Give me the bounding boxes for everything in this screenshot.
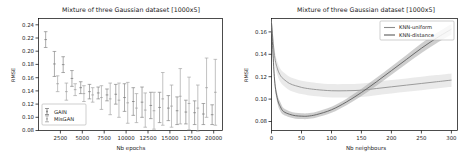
- left-xtick-3: 10000: [118, 135, 136, 141]
- error-bar: [205, 58, 209, 117]
- right-legend-label-knn-distance: KNN-distance: [399, 32, 434, 38]
- left-legend-label-misgan: MisGAN: [54, 116, 74, 122]
- right-xtick-6: 300: [446, 135, 457, 141]
- error-bar: [167, 96, 171, 121]
- right-xtick-4: 200: [386, 135, 397, 141]
- left-xtick-4: 12500: [139, 135, 157, 141]
- error-bar: [152, 92, 156, 129]
- error-bar: [196, 85, 200, 131]
- right-chart-svg: Mixture of three Gaussian dataset [1000x…: [235, 0, 470, 159]
- error-bar: [70, 71, 74, 87]
- error-bar: [100, 86, 104, 110]
- left-ytick-3: 0.14: [22, 88, 35, 94]
- error-bar: [175, 97, 179, 125]
- error-bar: [82, 86, 86, 102]
- error-bar: [140, 87, 144, 117]
- right-xtick-2: 100: [326, 135, 337, 141]
- chart-panel-left: Mixture of three Gaussian dataset [1000x…: [0, 0, 235, 159]
- left-x-axis-label: Nb epochs: [117, 145, 146, 152]
- error-bar: [79, 82, 83, 94]
- error-bar: [117, 83, 121, 117]
- error-bar: [44, 32, 48, 48]
- error-bar: [214, 59, 218, 125]
- error-bar: [210, 105, 214, 125]
- error-bar: [193, 101, 197, 125]
- right-xtick-1: 50: [298, 135, 305, 141]
- left-ytick-5: 0.18: [22, 61, 35, 67]
- left-xtick-1: 5000: [75, 135, 89, 141]
- error-bar: [126, 82, 130, 123]
- left-xtick-7: 20000: [205, 135, 223, 141]
- error-bar: [73, 84, 77, 96]
- error-bar: [65, 83, 69, 100]
- error-bar: [143, 93, 147, 127]
- left-y-ticks: 0.08 0.10 0.12 0.14 0.16 0.18 0.20 0.22 …: [22, 22, 39, 134]
- right-y-axis-label: RMSE: [243, 68, 249, 82]
- left-ytick-8: 0.24: [22, 22, 35, 28]
- error-bar: [91, 88, 95, 102]
- error-bar: [161, 73, 165, 126]
- right-ytick-0: 0.08: [255, 118, 268, 124]
- left-chart-title: Mixture of three Gaussian dataset [1000x…: [62, 6, 200, 13]
- figure-canvas: Mixture of three Gaussian dataset [1000x…: [0, 0, 470, 159]
- error-bar: [108, 83, 112, 115]
- left-chart-svg: Mixture of three Gaussian dataset [1000x…: [0, 0, 235, 159]
- error-bar: [131, 88, 135, 116]
- left-xtick-6: 17500: [183, 135, 201, 141]
- chart-panel-right: Mixture of three Gaussian dataset [1000x…: [235, 0, 470, 159]
- error-bar: [53, 51, 57, 76]
- right-chart-title: Mixture of three Gaussian dataset [1000x…: [297, 6, 435, 13]
- right-ytick-4: 0.16: [255, 29, 268, 35]
- left-ytick-6: 0.20: [22, 48, 35, 54]
- right-ytick-1: 0.10: [255, 96, 268, 102]
- left-legend-label-gain: GAIN: [54, 109, 67, 115]
- left-xtick-2: 7500: [97, 135, 111, 141]
- error-bar: [178, 69, 182, 124]
- error-bar: [187, 77, 191, 130]
- error-bar: [135, 94, 139, 123]
- error-bar: [114, 84, 118, 104]
- error-bar: [56, 76, 60, 92]
- right-ytick-2: 0.12: [255, 74, 267, 80]
- right-x-axis-label: Nb neighbours: [346, 145, 386, 152]
- error-bar: [158, 92, 162, 122]
- left-ytick-0: 0.08: [22, 127, 35, 133]
- left-ytick-1: 0.10: [22, 114, 35, 120]
- left-ytick-7: 0.22: [22, 35, 34, 41]
- left-ytick-2: 0.12: [22, 101, 34, 107]
- right-xtick-3: 150: [356, 135, 367, 141]
- error-bar: [61, 57, 65, 73]
- left-ytick-4: 0.16: [22, 75, 35, 81]
- error-bar: [105, 89, 109, 101]
- right-legend-label-knn-uniform: KNN-uniform: [399, 24, 432, 30]
- error-bar: [184, 100, 188, 124]
- left-xtick-5: 15000: [161, 135, 179, 141]
- left-legend[interactable]: GAIN MisGAN: [42, 104, 86, 125]
- error-bar: [96, 87, 100, 99]
- right-ytick-3: 0.14: [255, 51, 268, 57]
- error-bar: [123, 84, 127, 112]
- left-xtick-0: 2500: [54, 135, 68, 141]
- right-xtick-5: 250: [416, 135, 427, 141]
- error-bar: [149, 92, 153, 118]
- right-x-ticks: 0 50 100 150 200 250 300: [270, 131, 457, 142]
- error-bar: [170, 85, 174, 127]
- right-y-ticks: 0.08 0.10 0.12 0.14 0.16: [255, 29, 272, 125]
- error-bar: [88, 84, 92, 98]
- right-xtick-0: 0: [270, 135, 274, 141]
- right-legend[interactable]: KNN-uniform KNN-distance: [380, 21, 454, 40]
- left-x-ticks: 2500 5000 7500 10000 12500 15000 17500 2…: [54, 131, 223, 142]
- left-y-axis-label: RMSE: [10, 68, 16, 82]
- error-bar: [202, 103, 206, 124]
